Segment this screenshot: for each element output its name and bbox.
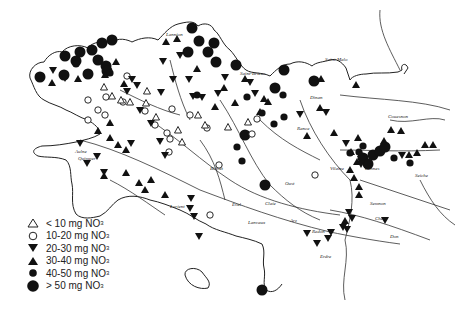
site-40-50-icon [238, 157, 245, 164]
site-gt50-icon [97, 38, 108, 49]
site-20-30-icon [185, 76, 193, 83]
site-20-30-icon [157, 89, 165, 96]
site-10-20-icon [85, 117, 91, 123]
site-20-30-icon [313, 240, 321, 247]
site-30-40-icon [341, 217, 349, 224]
legend-item-gt50: > 50 mg NO3 [26, 280, 109, 293]
legend-label: 20-30 mg NO [46, 243, 106, 254]
site-gt50-icon [75, 47, 86, 58]
site-20-30-icon [324, 235, 332, 242]
site-20-30-icon [322, 109, 330, 116]
site-10-20-icon [254, 116, 260, 122]
site-30-40-icon [350, 174, 358, 181]
site-20-30-icon [251, 90, 259, 97]
site-30-40-icon [330, 129, 338, 136]
site-gt50-icon [187, 23, 198, 34]
site-30-40-icon [211, 103, 219, 110]
site-gt50-icon [211, 57, 222, 68]
site-lt10-icon [109, 93, 116, 100]
legend-item-lt10: < 10 mg NO3 [26, 217, 109, 230]
site-30-40-icon [231, 99, 239, 106]
site-10-20-icon [167, 136, 173, 142]
site-lt10-icon [127, 99, 134, 106]
site-lt10-icon [225, 124, 232, 131]
site-40-50-icon [243, 93, 250, 100]
triangle-up-filled-icon [26, 255, 40, 267]
legend-label: 40-50 mg NO [46, 268, 106, 279]
site-20-30-icon [221, 74, 229, 81]
site-20-30-icon [100, 169, 108, 176]
site-20-30-icon [49, 67, 57, 74]
site-30-40-icon [141, 186, 149, 193]
site-lt10-icon [144, 88, 151, 95]
river-label: Arz [289, 218, 297, 223]
site-10-20-icon [95, 107, 101, 113]
site-10-20-icon [312, 172, 318, 178]
site-lt10-icon [245, 119, 252, 126]
site-40-50-icon [270, 120, 277, 127]
legend-label: 30-40 mg NO [46, 255, 106, 266]
site-30-40-icon [355, 183, 363, 190]
river-label: Vilaine [330, 166, 345, 171]
river-label: Evel [231, 202, 241, 207]
site-20-30-icon [128, 76, 136, 83]
site-20-30-icon [123, 88, 131, 95]
legend-label: > 50 mg NO [46, 280, 100, 291]
river-label: Semnon [370, 201, 386, 206]
triangle-down-filled-icon [26, 242, 40, 254]
site-lt10-icon [143, 100, 150, 107]
river-label: Seiche [415, 173, 429, 178]
site-10-20-icon [102, 112, 108, 118]
site-10-20-icon [187, 112, 193, 118]
site-gt50-icon [257, 285, 268, 296]
site-gt50-icon [260, 180, 271, 191]
site-10-20-icon [164, 130, 170, 136]
river-labels: LannionSaint-BrieucSaint-MaloDinanRanceA… [74, 32, 429, 259]
triangle-open-icon [26, 217, 40, 229]
site-gt50-icon [270, 83, 281, 94]
site-gt50-icon [203, 47, 214, 58]
river-label: Saint-Malo [325, 57, 348, 62]
site-30-40-icon [162, 38, 170, 45]
site-20-30-icon [159, 58, 167, 65]
site-gt50-icon [363, 159, 374, 170]
site-30-40-icon [303, 132, 311, 139]
site-gt50-icon [60, 51, 71, 62]
site-30-40-icon [413, 149, 421, 156]
site-gt50-icon [231, 60, 242, 71]
site-20-30-icon [187, 195, 195, 202]
site-20-30-icon [127, 140, 135, 147]
site-20-30-icon [186, 205, 194, 212]
site-gt50-icon [35, 72, 46, 83]
site-30-40-icon [120, 80, 128, 87]
site-30-40-icon [397, 127, 405, 134]
site-20-30-icon [156, 138, 164, 145]
site-30-40-icon [260, 95, 268, 102]
river-label: Lanvaux [247, 220, 266, 225]
legend-label: < 10 mg NO [46, 218, 100, 229]
site-40-50-icon [233, 143, 240, 150]
site-40-50-icon [359, 142, 366, 149]
site-20-30-icon [296, 111, 304, 118]
site-30-40-icon [346, 166, 354, 173]
site-20-30-icon [246, 79, 254, 86]
site-30-40-icon [48, 79, 56, 86]
river-label: Don [389, 234, 399, 239]
site-gt50-icon [194, 36, 205, 47]
site-20-30-icon [83, 160, 91, 167]
river-label: Rance [296, 126, 310, 131]
site-30-40-icon [387, 126, 395, 133]
site-10-20-icon [207, 212, 213, 218]
site-20-30-icon [195, 233, 203, 240]
site-20-30-icon [342, 140, 350, 147]
site-20-30-icon [343, 226, 351, 233]
river-label: Oust [285, 181, 295, 186]
site-30-40-icon [74, 75, 82, 82]
site-30-40-icon [114, 141, 122, 148]
site-30-40-icon [106, 119, 114, 126]
river-label: Saint-Brieuc [240, 71, 266, 76]
site-lt10-icon [175, 127, 182, 134]
site-30-40-icon [161, 191, 169, 198]
site-gt50-icon [107, 35, 118, 46]
site-gt50-icon [279, 65, 290, 76]
